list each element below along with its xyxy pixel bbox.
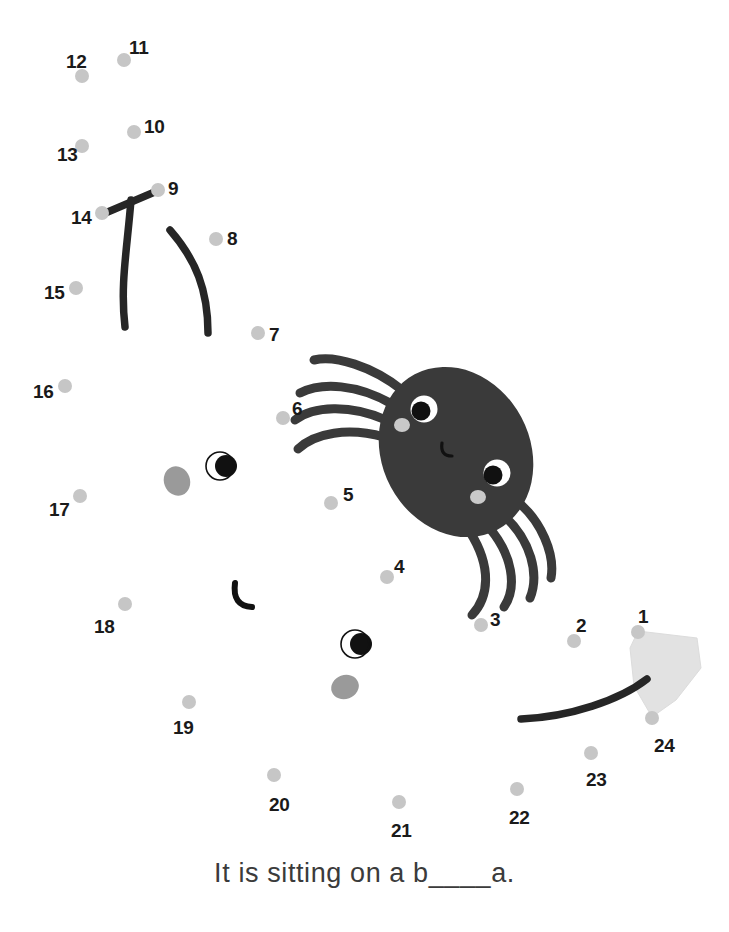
dot-label-20: 20 [269, 795, 290, 814]
dot-label-1: 1 [638, 607, 648, 626]
ghost-mouth-curve [235, 583, 252, 607]
dot-label-24: 24 [654, 736, 675, 755]
spider-leg-upper-3 [295, 409, 386, 420]
worksheet-page: 123456789101112131415161718192021222324 … [0, 0, 729, 932]
dot-21[interactable] [392, 795, 406, 809]
dot-label-17: 17 [49, 500, 70, 519]
dot-19[interactable] [182, 695, 196, 709]
dot-label-4: 4 [394, 557, 404, 576]
dot-17[interactable] [73, 489, 87, 503]
dot-label-21: 21 [391, 821, 412, 840]
dot-15[interactable] [69, 281, 83, 295]
dot-23[interactable] [584, 746, 598, 760]
dot-label-19: 19 [173, 718, 194, 737]
ghost-cheek-upper [160, 462, 195, 499]
eye-lower-right-pupil [484, 466, 503, 485]
partial-line-strokes [103, 191, 647, 719]
dot-7[interactable] [251, 326, 265, 340]
dot-label-14: 14 [71, 208, 92, 227]
kite-polygon [630, 631, 701, 717]
dot-8[interactable] [209, 232, 223, 246]
dot-label-12: 12 [66, 52, 87, 71]
puzzle-artwork-canvas [0, 0, 729, 932]
cheek-right [470, 490, 486, 504]
dot-label-9: 9 [168, 179, 178, 198]
dot-18[interactable] [118, 597, 132, 611]
dot-label-15: 15 [44, 283, 65, 302]
cheek-left [394, 418, 410, 432]
dot-label-23: 23 [586, 770, 607, 789]
dot-5[interactable] [324, 496, 338, 510]
stroke-long-leg-mid [170, 230, 208, 333]
dot-label-2: 2 [576, 616, 586, 635]
dot-24[interactable] [645, 711, 659, 725]
dot-4[interactable] [380, 570, 394, 584]
dot-3[interactable] [474, 618, 488, 632]
banana-kite-shape [630, 631, 701, 717]
dot-20[interactable] [267, 768, 281, 782]
dot-label-16: 16 [33, 382, 54, 401]
ghost-cheek-lower [328, 671, 363, 703]
spider-leg-upper-4 [298, 432, 384, 449]
dot-10[interactable] [127, 125, 141, 139]
dot-label-11: 11 [129, 38, 149, 57]
dot-2[interactable] [567, 634, 581, 648]
dot-label-13: 13 [57, 145, 78, 164]
ghost-eyes [206, 452, 372, 658]
spider-leg-lower-3 [486, 524, 511, 607]
stroke-kite-tail [521, 679, 647, 719]
dot-label-10: 10 [144, 117, 165, 136]
spider-leg-lower-4 [470, 532, 486, 615]
spider-leg-upper-2 [300, 386, 392, 404]
caption-sentence: It is sitting on a b____a. [0, 858, 729, 889]
dot-16[interactable] [58, 379, 72, 393]
dot-6[interactable] [276, 411, 290, 425]
dot-14[interactable] [95, 206, 109, 220]
dot-label-22: 22 [509, 808, 530, 827]
dot-22[interactable] [510, 782, 524, 796]
dot-label-6: 6 [292, 399, 302, 418]
dot-label-5: 5 [343, 485, 353, 504]
dot-1[interactable] [631, 625, 645, 639]
eye-upper-left-pupil [412, 402, 431, 421]
spider-figure [295, 340, 563, 615]
dot-9[interactable] [151, 183, 165, 197]
dot-label-18: 18 [94, 617, 115, 636]
ghost-face-marks [160, 452, 372, 703]
dot-label-7: 7 [269, 325, 279, 344]
stroke-long-leg-left [123, 200, 131, 327]
dot-label-8: 8 [227, 229, 237, 248]
dot-label-3: 3 [490, 610, 500, 629]
